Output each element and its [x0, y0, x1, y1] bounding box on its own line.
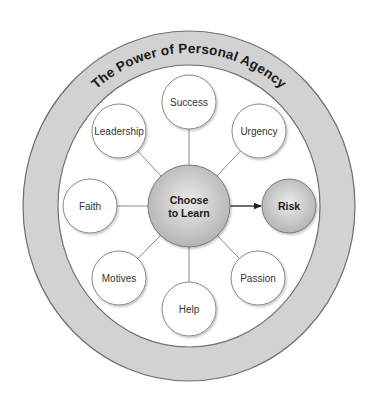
node-help[interactable]: Help: [162, 282, 216, 336]
hub-circle[interactable]: [148, 165, 230, 247]
node-label: Motives: [102, 273, 136, 284]
node-motives[interactable]: Motives: [92, 251, 146, 305]
risk-label: Risk: [278, 200, 300, 212]
hub-label-line2: to Learn: [168, 207, 209, 219]
node-urgency[interactable]: Urgency: [232, 104, 286, 158]
diagram-canvas: The Power of Personal Agency SuccessUrge…: [0, 0, 378, 402]
node-label: Passion: [240, 273, 276, 284]
node-label: Urgency: [240, 126, 277, 137]
node-label: Faith: [79, 201, 101, 212]
node-success[interactable]: Success: [162, 75, 216, 129]
risk-node[interactable]: Risk: [262, 179, 316, 233]
node-label: Help: [179, 304, 200, 315]
node-label: Leadership: [94, 126, 144, 137]
hub-node[interactable]: Choose to Learn: [148, 165, 230, 247]
hub-label-line1: Choose: [170, 194, 209, 206]
node-leadership[interactable]: Leadership: [92, 104, 146, 158]
node-faith[interactable]: Faith: [63, 179, 117, 233]
node-label: Success: [170, 97, 208, 108]
personal-agency-diagram: The Power of Personal Agency SuccessUrge…: [0, 0, 378, 402]
node-passion[interactable]: Passion: [231, 251, 285, 305]
